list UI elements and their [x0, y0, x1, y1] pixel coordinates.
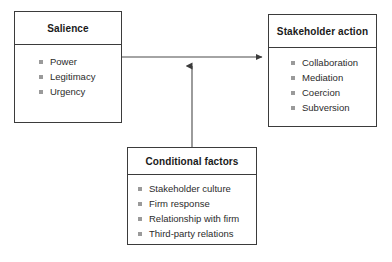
list-item: Third-party relations	[138, 226, 256, 241]
list-item-label: Relationship with firm	[149, 211, 239, 226]
list-item: Urgency	[39, 84, 121, 99]
list-item-label: Collaboration	[302, 55, 358, 70]
list-item: Firm response	[138, 196, 256, 211]
node-stakeholder-action-body: Collaboration Mediation Coercion Subvers…	[269, 48, 376, 120]
diagram-canvas: Salience Power Legitimacy Urgency Stakeh…	[0, 0, 392, 262]
list-item: Power	[39, 54, 121, 69]
square-bullet-icon	[39, 90, 43, 94]
square-bullet-icon	[291, 76, 295, 80]
node-stakeholder-action: Stakeholder action Collaboration Mediati…	[268, 14, 377, 127]
list-item-label: Subversion	[302, 100, 350, 115]
list-item-label: Firm response	[149, 196, 210, 211]
square-bullet-icon	[39, 75, 43, 79]
list-item-label: Power	[50, 54, 77, 69]
list-item: Subversion	[291, 100, 376, 115]
node-stakeholder-action-item-list: Collaboration Mediation Coercion Subvers…	[291, 55, 376, 115]
list-item-label: Third-party relations	[149, 226, 233, 241]
list-item-label: Stakeholder culture	[149, 181, 231, 196]
node-conditional-factors-item-list: Stakeholder culture Firm response Relati…	[138, 181, 256, 241]
square-bullet-icon	[138, 217, 142, 221]
node-salience-item-list: Power Legitimacy Urgency	[39, 54, 121, 99]
square-bullet-icon	[138, 187, 142, 191]
node-stakeholder-action-title: Stakeholder action	[269, 15, 376, 48]
square-bullet-icon	[138, 232, 142, 236]
list-item-label: Mediation	[302, 70, 343, 85]
node-conditional-factors-title: Conditional factors	[128, 148, 256, 175]
list-item: Collaboration	[291, 55, 376, 70]
list-item: Relationship with firm	[138, 211, 256, 226]
node-salience: Salience Power Legitimacy Urgency	[14, 11, 122, 123]
list-item: Mediation	[291, 70, 376, 85]
square-bullet-icon	[39, 60, 43, 64]
node-salience-body: Power Legitimacy Urgency	[15, 45, 121, 104]
list-item: Coercion	[291, 85, 376, 100]
node-conditional-factors-body: Stakeholder culture Firm response Relati…	[128, 175, 256, 246]
node-conditional-factors: Conditional factors Stakeholder culture …	[127, 147, 257, 245]
node-salience-title: Salience	[15, 12, 121, 45]
list-item-label: Urgency	[50, 84, 85, 99]
list-item-label: Coercion	[302, 85, 340, 100]
square-bullet-icon	[291, 106, 295, 110]
list-item-label: Legitimacy	[50, 69, 95, 84]
square-bullet-icon	[291, 91, 295, 95]
square-bullet-icon	[291, 61, 295, 65]
list-item: Legitimacy	[39, 69, 121, 84]
list-item: Stakeholder culture	[138, 181, 256, 196]
square-bullet-icon	[138, 202, 142, 206]
